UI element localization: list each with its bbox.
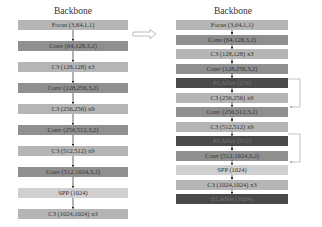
skip-connection-1 bbox=[288, 79, 300, 107]
hollow-right-arrow-icon bbox=[133, 30, 156, 39]
connector-lines bbox=[0, 0, 322, 227]
skip-connection-2 bbox=[288, 134, 300, 162]
